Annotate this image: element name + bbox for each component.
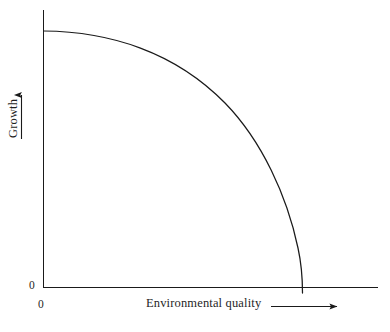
trade-off-frontier-curve (44, 31, 303, 293)
chart-figure: 0 0 Environmental quality Growth (0, 0, 390, 332)
y-axis-title: Growth (7, 99, 20, 138)
x-axis-origin-label: 0 (38, 299, 44, 311)
chart-plot-area (0, 0, 390, 332)
y-axis-origin-label: 0 (29, 280, 35, 292)
x-axis-title: Environmental quality (146, 297, 261, 310)
